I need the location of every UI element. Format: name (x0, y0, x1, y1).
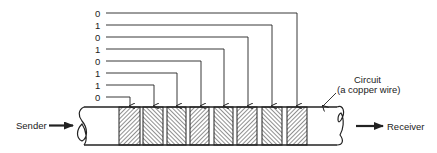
bit-block-4 (190, 107, 209, 145)
sender-label: Sender (16, 120, 47, 131)
bit-block-2 (143, 107, 163, 145)
circuit-sublabel: (a copper wire) (337, 84, 400, 95)
bit-blocks (119, 107, 307, 145)
bit-label-4: 1 (95, 44, 100, 55)
circuit-pointer (323, 93, 336, 106)
bit-leader-lines (106, 13, 297, 106)
bit-label-7: 1 (95, 80, 100, 91)
bit-block-8 (287, 107, 307, 145)
bit-block-7 (262, 107, 282, 145)
bit-label-6: 1 (95, 68, 100, 79)
bit-block-6 (237, 107, 257, 145)
bit-label-2: 1 (95, 20, 100, 31)
receiver-label: Receiver (387, 121, 425, 132)
bit-label-8: 0 (95, 92, 100, 103)
bit-label-3: 0 (95, 32, 100, 43)
bit-block-5 (214, 107, 233, 145)
serial-transmission-diagram: 0 1 0 1 0 1 1 0 Sender Receiver Circuit … (0, 0, 437, 153)
bit-block-3 (167, 107, 186, 145)
bit-labels: 0 1 0 1 0 1 1 0 (95, 8, 100, 103)
bit-label-5: 0 (95, 56, 100, 67)
bit-block-1 (119, 107, 140, 145)
bit-label-1: 0 (95, 8, 100, 19)
